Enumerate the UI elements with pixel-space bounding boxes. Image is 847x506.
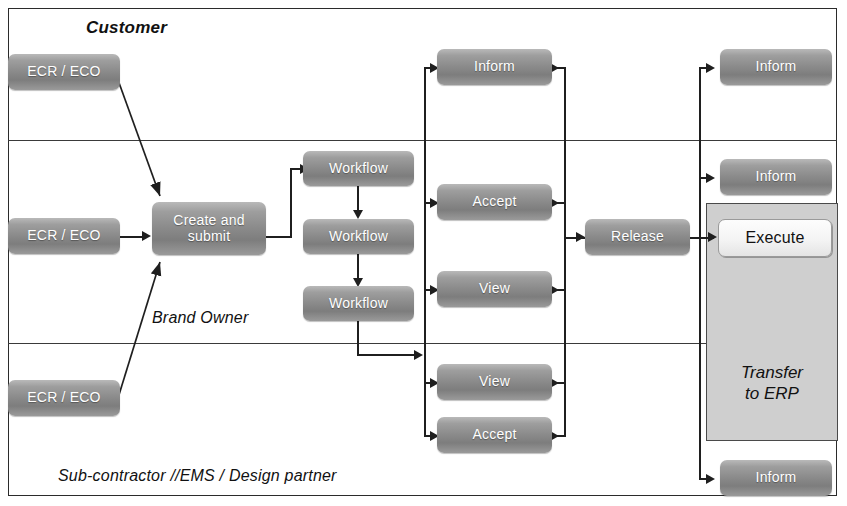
node-workflow-2[interactable]: Workflow (303, 219, 414, 254)
connector-ecr-brand-to-create (120, 236, 144, 238)
node-execute[interactable]: Execute (718, 219, 832, 257)
node-inform-bottom[interactable]: Inform (720, 460, 832, 496)
node-release[interactable]: Release (585, 219, 690, 255)
node-ecr-eco-brand[interactable]: ECR / ECO (8, 218, 120, 254)
transfer-to-erp-label: Transfer to ERP (706, 362, 838, 405)
node-workflow-3[interactable]: Workflow (303, 286, 414, 321)
connector-create-out-h (266, 236, 292, 238)
lane-label-brand-owner: Brand Owner (152, 309, 248, 327)
node-inform-customer[interactable]: Inform (437, 49, 552, 85)
node-accept-brand[interactable]: Accept (437, 184, 552, 220)
arrowhead-execute-in (708, 232, 717, 242)
connector-workflow3-down (357, 321, 359, 355)
arrowhead-release-in (576, 232, 585, 242)
lane-label-customer: Customer (86, 18, 167, 38)
arrowhead-workflow2-in (353, 210, 363, 219)
lane-label-subcontractor: Sub-contractor //EMS / Design partner (58, 467, 337, 485)
arrowhead-distributor-in (414, 350, 423, 360)
connector-create-out-v (290, 169, 292, 237)
lane-divider-customer-brand (8, 140, 837, 141)
node-ecr-eco-subcontractor[interactable]: ECR / ECO (8, 380, 120, 416)
node-view-brand[interactable]: View (437, 271, 552, 307)
node-inform-top[interactable]: Inform (720, 49, 832, 85)
node-inform-mid[interactable]: Inform (720, 159, 832, 195)
connector-distributor-bus (424, 67, 426, 436)
node-workflow-1[interactable]: Workflow (303, 151, 414, 186)
arrowhead-inform-mid-in (706, 173, 715, 183)
diagram-canvas: Customer Brand Owner Sub-contractor //EM… (0, 0, 847, 506)
arrowhead-inform-bottom-in (706, 474, 715, 484)
connector-release-bus (699, 67, 701, 479)
node-create-and-submit[interactable]: Create and submit (152, 202, 266, 255)
arrowhead-inform-top-in (706, 63, 715, 73)
node-view-subcontractor[interactable]: View (437, 364, 552, 400)
connector-workflow3-to-distributor (357, 354, 421, 356)
node-accept-subcontractor[interactable]: Accept (437, 417, 552, 453)
arrowhead-create-submit-in (142, 231, 151, 241)
connector-collector-bus (564, 67, 566, 436)
node-ecr-eco-customer[interactable]: ECR / ECO (8, 54, 120, 90)
